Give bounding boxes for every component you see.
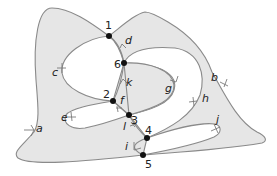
edge-label-h: h: [202, 92, 209, 105]
vertex-label-3: 3: [131, 114, 138, 127]
edge-label-k: k: [126, 76, 133, 89]
edge-label-e: e: [61, 111, 68, 124]
graph-diagram: 1 2 3 4 5 6 a b c d e f g h i j k l: [0, 0, 277, 176]
vertex-label-1: 1: [105, 19, 112, 32]
vertex-2: [110, 98, 116, 104]
vertex-label-4: 4: [145, 124, 152, 137]
edge-label-a: a: [36, 122, 43, 135]
vertex-label-6: 6: [114, 58, 121, 71]
vertex-label-5: 5: [145, 158, 152, 171]
edge-label-g: g: [165, 82, 172, 95]
edge-label-b: b: [211, 71, 218, 84]
vertex-label-2: 2: [103, 88, 110, 101]
edge-label-c: c: [52, 66, 58, 79]
vertex-6: [121, 60, 127, 66]
edge-label-l: l: [123, 120, 126, 133]
arrow-b: [220, 79, 228, 87]
edge-label-d: d: [125, 34, 133, 47]
edge-label-i: i: [125, 140, 128, 153]
vertex-1: [106, 33, 112, 39]
